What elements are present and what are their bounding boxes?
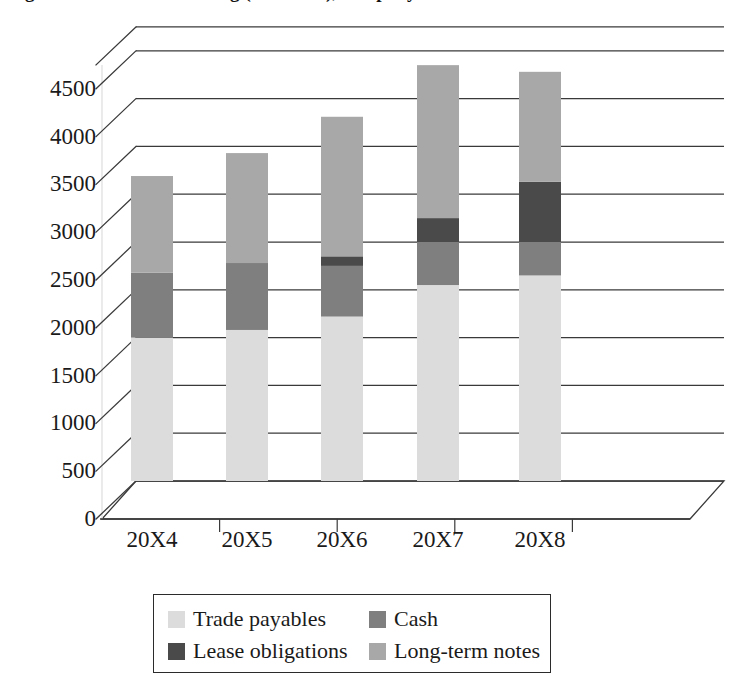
legend-swatch-icon (168, 643, 185, 660)
y-axis-tick-label: 1500 (12, 364, 96, 387)
bar-segment[interactable] (417, 65, 459, 218)
chart-legend: Trade payables Cash Lease obligations Lo… (153, 594, 551, 673)
bar-group[interactable] (226, 153, 268, 481)
bar-segment[interactable] (417, 285, 459, 481)
y-axis-tick-label: 4000 (12, 125, 96, 148)
y-axis-tick-label: 1000 (12, 411, 96, 434)
bar-segment[interactable] (321, 117, 363, 257)
y-axis-tick-label: 2500 (12, 268, 96, 291)
bar-segment[interactable] (417, 218, 459, 242)
bar-segment[interactable] (131, 273, 173, 338)
legend-swatch-icon (369, 643, 386, 660)
bar-segment[interactable] (519, 242, 561, 275)
bar-segment[interactable] (226, 263, 268, 330)
bar-segment[interactable] (519, 182, 561, 242)
bar-segment[interactable] (131, 176, 173, 273)
bar-segment[interactable] (226, 330, 268, 481)
legend-label: Long-term notes (394, 639, 540, 663)
legend-row: Lease obligations Long-term notes (154, 635, 550, 667)
legend-item-cash[interactable]: Cash (365, 607, 550, 631)
bar-segment[interactable] (226, 153, 268, 263)
legend-item-long-term-notes[interactable]: Long-term notes (365, 639, 550, 663)
legend-label: Trade payables (193, 607, 326, 631)
legend-swatch-icon (369, 611, 386, 628)
legend-label: Cash (394, 607, 438, 631)
bar-segment[interactable] (321, 266, 363, 317)
bars (131, 65, 561, 481)
legend-item-lease-obligations[interactable]: Lease obligations (154, 639, 365, 663)
legend-item-trade-payables[interactable]: Trade payables (154, 607, 365, 631)
bar-segment[interactable] (519, 72, 561, 182)
gridlines (96, 27, 724, 519)
x-axis-tick-label: 20X8 (480, 527, 600, 553)
y-axis-tick-label: 500 (12, 459, 96, 482)
bar-segment[interactable] (321, 256, 363, 266)
bar-group[interactable] (519, 72, 561, 481)
bar-group[interactable] (321, 117, 363, 481)
bar-group[interactable] (131, 176, 173, 481)
y-axis-tick-label: 3000 (12, 220, 96, 243)
y-axis-tick-label: 2000 (12, 316, 96, 339)
bar-group[interactable] (417, 65, 459, 481)
x-axis-labels: 20X420X520X620X720X8 (0, 527, 748, 567)
legend-label: Lease obligations (193, 639, 348, 663)
y-axis-labels: 050010001500200025003000350040004500 (4, 0, 96, 560)
legend-row: Trade payables Cash (154, 603, 550, 635)
plot-area (0, 0, 748, 570)
bar-segment[interactable] (321, 317, 363, 481)
y-axis-tick-label: 4500 (12, 77, 96, 100)
bar-segment[interactable] (131, 338, 173, 481)
legend-swatch-icon (168, 611, 185, 628)
bar-segment[interactable] (417, 242, 459, 285)
chart-figure: Figure: Sources of financing (liabilitie… (0, 0, 748, 694)
y-axis-tick-label: 3500 (12, 172, 96, 195)
bar-segment[interactable] (519, 275, 561, 481)
axis-floor (102, 481, 724, 519)
